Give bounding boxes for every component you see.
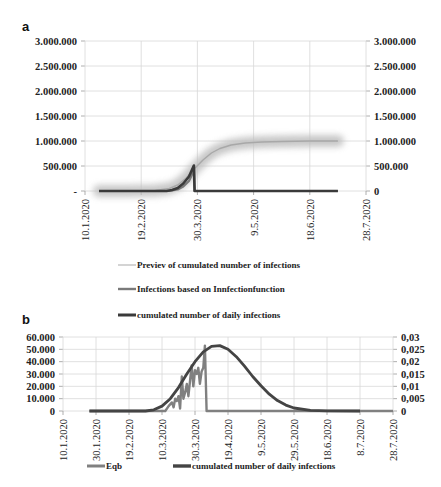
y-left-tick-label: 60.000 — [26, 332, 55, 343]
y-right-tick-label: 0,015 — [401, 369, 425, 380]
y-left-tick-label: 2.000.000 — [35, 86, 77, 97]
y-left-tick-label: 20.000 — [26, 381, 55, 392]
y-right-tick-label: 1.000.000 — [374, 136, 416, 147]
y-right-tick-label: 2.500.000 — [374, 61, 416, 72]
legend-label: Previev of cumulated number of infection… — [137, 260, 300, 270]
chart-a-y-right-axis: 0500.0001.000.0001.500.0002.000.0002.500… — [374, 36, 416, 197]
series-line-1 — [89, 346, 360, 411]
y-left-tick-label: 10.000 — [26, 393, 55, 404]
x-tick-label: 19.2.2020 — [124, 419, 135, 461]
y-left-tick-label: 500.000 — [43, 161, 77, 172]
y-left-tick-label: 0 — [50, 406, 55, 417]
legend-item: Previev of cumulated number of infection… — [118, 260, 300, 270]
figure: a -500.0001.000.0001.500.0002.000.0002.5… — [0, 0, 441, 487]
series-line-0 — [89, 346, 393, 411]
chart-a-x-axis: 10.1.202019.2.202030.3.20209.5.202018.6.… — [80, 199, 372, 241]
chart-a-legend: Previev of cumulated number of infection… — [118, 260, 300, 320]
y-right-tick-label: 0,005 — [401, 393, 425, 404]
y-left-tick-label: 3.000.000 — [35, 36, 77, 47]
x-tick-label: 18.6.2020 — [322, 419, 333, 461]
x-tick-label: 30.3.2020 — [192, 199, 203, 241]
chart-b-series — [89, 346, 393, 411]
chart-b-y-left-axis: 010.00020.00030.00040.00050.00060.000 — [26, 332, 55, 417]
y-left-tick-label: 1.000.000 — [35, 136, 77, 147]
chart-b-x-axis: 10.1.202030.1.202019.2.202010.3.202030.3… — [58, 419, 399, 461]
legend-item: Infections based on Innfectionfunction — [118, 284, 285, 294]
legend-label: cumulated number of daily infections — [192, 461, 336, 471]
legend-label: Infections based on Innfectionfunction — [137, 284, 285, 294]
x-tick-label: 29.5.2020 — [289, 419, 300, 461]
panel-b-label: b — [22, 312, 30, 327]
chart-a: -500.0001.000.0001.500.0002.000.0002.500… — [35, 36, 416, 321]
chart-b: 010.00020.00030.00040.00050.00060.000 00… — [26, 332, 425, 472]
x-tick-label: 19.2.2020 — [136, 199, 147, 241]
x-tick-label: 28.7.2020 — [388, 419, 399, 461]
x-tick-label: 10.1.2020 — [58, 419, 69, 461]
legend-label: cumulated number of daily infections — [137, 310, 281, 320]
x-tick-label: 30.3.2020 — [190, 419, 201, 461]
x-tick-label: 9.5.2020 — [249, 199, 260, 236]
y-left-tick-label: 1.500.000 — [35, 111, 77, 122]
y-right-tick-label: 0,03 — [401, 332, 419, 343]
y-left-tick-label: - — [74, 186, 78, 197]
y-right-tick-label: 2.000.000 — [374, 86, 416, 97]
legend-item: cumulated number of daily infections — [173, 461, 336, 471]
y-left-tick-label: 40.000 — [26, 356, 55, 367]
x-tick-label: 10.1.2020 — [80, 199, 91, 241]
y-left-tick-label: 50.000 — [26, 344, 55, 355]
x-tick-label: 10.3.2020 — [157, 419, 168, 461]
chart-b-legend: Eqbcumulated number of daily infections — [87, 461, 336, 471]
chart-a-y-left-axis: -500.0001.000.0001.500.0002.000.0002.500… — [35, 36, 78, 197]
y-left-tick-label: 2.500.000 — [35, 61, 77, 72]
y-right-tick-label: 0,02 — [401, 356, 419, 367]
x-tick-label: 28.7.2020 — [361, 199, 372, 241]
y-right-tick-label: 500.000 — [374, 161, 408, 172]
legend-label: Eqb — [106, 461, 122, 471]
chart-b-y-right-axis: 00,0050,010,0150,020,0250,03 — [401, 332, 425, 417]
y-right-tick-label: 0 — [374, 186, 379, 197]
y-left-tick-label: 30.000 — [26, 369, 55, 380]
x-tick-label: 9.5.2020 — [256, 419, 267, 456]
x-tick-label: 18.6.2020 — [305, 199, 316, 241]
panel-a-label: a — [22, 19, 30, 34]
y-right-tick-label: 0,01 — [401, 381, 419, 392]
y-right-tick-label: 3.000.000 — [374, 36, 416, 47]
x-tick-label: 8.7.2020 — [355, 419, 366, 456]
x-tick-label: 30.1.2020 — [91, 419, 102, 461]
y-right-tick-label: 1.500.000 — [374, 111, 416, 122]
y-right-tick-label: 0 — [401, 406, 406, 417]
legend-item: Eqb — [87, 461, 122, 471]
y-right-tick-label: 0,025 — [401, 344, 425, 355]
x-tick-label: 19.4.2020 — [223, 419, 234, 461]
chart-a-grid — [81, 41, 370, 195]
legend-item: cumulated number of daily infections — [118, 310, 281, 320]
